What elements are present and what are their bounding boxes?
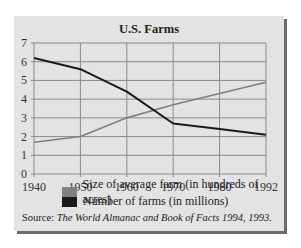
source-citation: Source: The World Almanac and Book of Fa…	[22, 212, 272, 223]
legend-swatch-black	[62, 197, 77, 207]
series-line-avg-farm-size	[34, 82, 266, 142]
y-tick-label: 2	[21, 130, 27, 144]
y-tick-label: 0	[21, 167, 27, 181]
y-tick-label: 5	[21, 73, 27, 87]
y-tick-label: 6	[21, 55, 27, 69]
y-tick-label: 3	[21, 111, 27, 125]
y-tick-label: 4	[21, 92, 27, 106]
legend-label: Number of farms (in millions)	[83, 194, 228, 209]
y-tick-label: 1	[21, 148, 27, 162]
y-tick-label: 7	[21, 36, 27, 50]
legend-item-num-farms: Number of farms (in millions)	[62, 194, 228, 209]
chart-panel: U.S. Farms 01234567194019501960197019801…	[14, 16, 284, 231]
x-tick-label: 1940	[22, 180, 46, 194]
series-line-number-of-farms	[34, 58, 266, 135]
source-title: The World Almanac and Book of Facts 1994…	[57, 212, 272, 223]
